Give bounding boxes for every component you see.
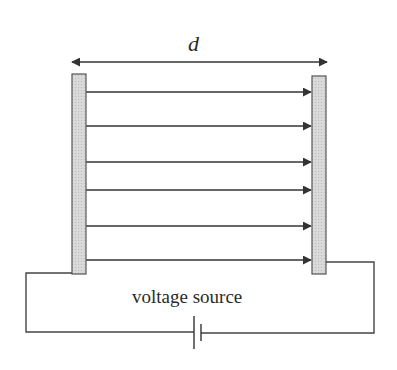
separation-label: d [188,32,199,56]
left-plate [72,74,86,274]
right-plate [312,76,326,274]
battery-icon [194,316,201,349]
electric-field-arrows [86,92,311,260]
voltage-source-label: voltage source [132,286,242,308]
capacitor-diagram: d voltage source [0,0,397,370]
